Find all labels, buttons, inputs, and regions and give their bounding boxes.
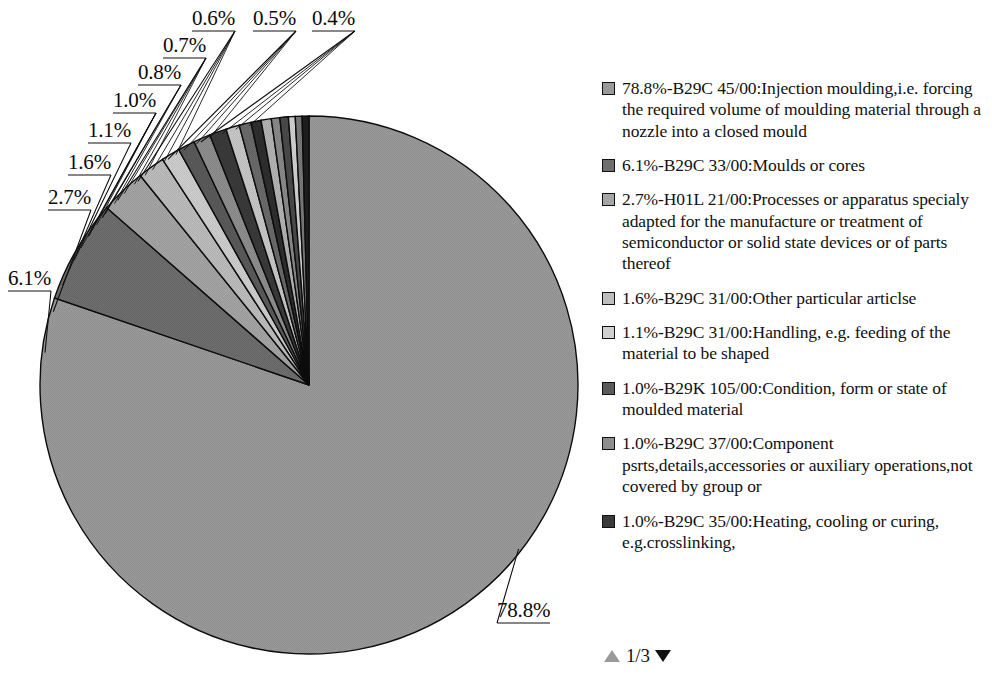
pie-percent-label: 1.1% [88,120,131,141]
pie-chart-area: 78.8%6.1%2.7%1.6%1.1%1.0%0.8%0.7%0.6%0.5… [0,0,600,675]
pie-percent-label: 0.7% [163,35,206,56]
legend-item[interactable]: 1.1%-B29C 31/00:Handling, e.g. feeding o… [602,322,992,365]
triangle-down-icon[interactable] [655,650,671,662]
pie-percent-label: 2.7% [48,187,91,208]
legend-swatch-icon [602,193,615,206]
legend-item-label: 1.1%-B29C 31/00:Handling, e.g. feeding o… [622,322,992,365]
legend-item[interactable]: 1.0%-B29K 105/00:Condition, form or stat… [602,378,992,421]
pie-percent-label: 0.5% [253,8,296,29]
pie-percent-label: 6.1% [8,268,51,289]
legend-swatch-icon [602,159,615,172]
legend-swatch-icon [602,292,615,305]
legend-item[interactable]: 1.6%-B29C 31/00:Other particular articls… [602,288,992,309]
legend-item[interactable]: 2.7%-H01L 21/00:Processes or apparatus s… [602,189,992,274]
pie-percent-label: 0.6% [192,8,235,29]
pie-percent-label: 78.8% [497,600,550,621]
legend-item-label: 78.8%-B29C 45/00:Injection moulding,i.e.… [622,78,992,142]
pie-percent-label: 0.8% [138,62,181,83]
triangle-up-icon[interactable] [604,650,620,662]
legend-item[interactable]: 6.1%-B29C 33/00:Moulds or cores [602,155,992,176]
leader-line [236,31,355,129]
leader-line [249,31,355,126]
legend-item-label: 1.0%-B29C 37/00:Component psrts,details,… [622,433,992,497]
legend-item[interactable]: 78.8%-B29C 45/00:Injection moulding,i.e.… [602,78,992,142]
legend: 78.8%-B29C 45/00:Injection moulding,i.e.… [602,78,992,566]
legend-swatch-icon [602,382,615,395]
legend-item-label: 1.6%-B29C 31/00:Other particular articls… [622,288,916,309]
pie-percent-label: 0.4% [312,8,355,29]
legend-swatch-icon [602,437,615,450]
legend-swatch-icon [602,326,615,339]
legend-swatch-icon [602,82,615,95]
legend-item-label: 1.0%-B29K 105/00:Condition, form or stat… [622,378,992,421]
pager-count: 1/3 [626,645,650,667]
pie-percent-label: 1.0% [113,90,156,111]
legend-item-label: 2.7%-H01L 21/00:Processes or apparatus s… [622,189,992,274]
pie-percent-label: 1.6% [68,152,111,173]
legend-item-label: 6.1%-B29C 33/00:Moulds or cores [622,155,865,176]
pie-texture-overlay [40,116,578,654]
legend-item[interactable]: 1.0%-B29C 35/00:Heating, cooling or curi… [602,511,992,554]
legend-item-label: 1.0%-B29C 35/00:Heating, cooling or curi… [622,511,992,554]
legend-item[interactable]: 1.0%-B29C 37/00:Component psrts,details,… [602,433,992,497]
pie-chart-svg [0,0,600,675]
legend-pager[interactable]: 1/3 [604,645,671,667]
legend-swatch-icon [602,515,615,528]
